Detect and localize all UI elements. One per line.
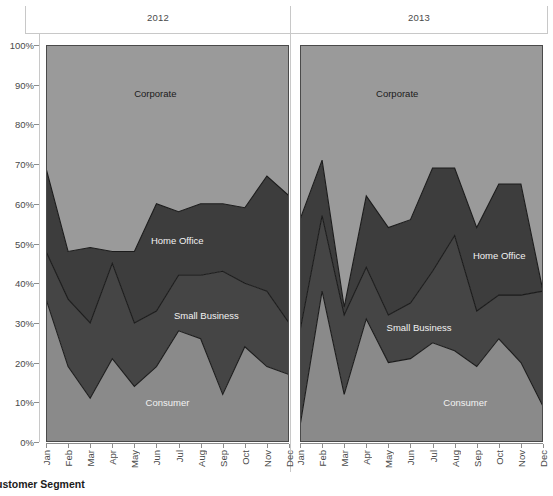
x-tick-mark <box>90 444 91 448</box>
x-tick-label-jan: Jan <box>41 450 52 465</box>
y-axis-line <box>39 34 40 442</box>
x-tick-label-feb: Feb <box>317 450 328 466</box>
x-tick-mark <box>477 444 478 448</box>
y-tick-mark <box>34 164 39 165</box>
x-tick-mark <box>179 444 180 448</box>
panel-header-2012: 2012 <box>25 6 290 34</box>
x-tick-mark <box>499 444 500 448</box>
x-tick-mark <box>156 444 157 448</box>
x-tick-mark <box>455 444 456 448</box>
y-tick-label: 70% <box>15 159 34 170</box>
x-axis-2013: JanFebMarAprMayJunJulAugSepOctNovDec <box>300 443 543 493</box>
x-axis-2012: JanFebMarAprMayJunJulAugSepOctNovDec <box>46 443 289 493</box>
y-tick-label: 0% <box>20 437 34 448</box>
x-tick-mark <box>68 444 69 448</box>
x-tick-mark <box>245 444 246 448</box>
y-tick-label: 50% <box>15 238 34 249</box>
x-axis-line <box>46 443 289 444</box>
chart-root: 20122013 0%10%20%30%40%50%60%70%80%90%10… <box>0 0 553 496</box>
x-tick-label-may: May <box>383 450 394 468</box>
x-tick-mark <box>134 444 135 448</box>
x-tick-mark <box>433 444 434 448</box>
x-tick-label-jul: Jul <box>428 450 439 462</box>
panel-header-label: 2013 <box>291 12 547 23</box>
panel-header-band: 20122013 <box>25 6 548 34</box>
x-tick-mark <box>300 444 301 448</box>
y-tick-label: 80% <box>15 119 34 130</box>
x-tick-label-mar: Mar <box>339 450 350 466</box>
x-tick-label-may: May <box>129 450 140 468</box>
y-tick-mark <box>34 283 39 284</box>
y-tick-mark <box>34 323 39 324</box>
x-tick-label-dec: Dec <box>284 450 295 467</box>
x-tick-label-jul: Jul <box>174 450 185 462</box>
y-tick-mark <box>34 244 39 245</box>
x-tick-mark <box>322 444 323 448</box>
x-tick-mark <box>366 444 367 448</box>
x-tick-mark <box>267 444 268 448</box>
x-tick-label-apr: Apr <box>361 450 372 465</box>
y-tick-mark <box>34 124 39 125</box>
x-tick-label-jan: Jan <box>295 450 306 465</box>
x-tick-mark <box>521 444 522 448</box>
x-tick-mark <box>289 444 290 448</box>
x-tick-label-oct: Oct <box>494 450 505 465</box>
x-axis-line <box>300 443 543 444</box>
y-tick-mark <box>34 85 39 86</box>
x-tick-label-jun: Jun <box>151 450 162 465</box>
x-tick-mark <box>223 444 224 448</box>
y-tick-label: 90% <box>15 79 34 90</box>
y-tick-mark <box>34 204 39 205</box>
x-tick-label-sep: Sep <box>218 450 229 467</box>
panel-header-label: 2012 <box>26 12 290 23</box>
y-tick-mark <box>34 45 39 46</box>
x-tick-label-aug: Aug <box>196 450 207 467</box>
x-tick-label-mar: Mar <box>85 450 96 466</box>
x-tick-mark <box>344 444 345 448</box>
y-tick-mark <box>34 363 39 364</box>
x-tick-mark <box>46 444 47 448</box>
x-tick-label-jun: Jun <box>405 450 416 465</box>
x-tick-label-sep: Sep <box>472 450 483 467</box>
panel-header-2013: 2013 <box>290 6 548 34</box>
plot-panel-2013 <box>300 45 543 442</box>
x-tick-mark <box>543 444 544 448</box>
y-tick-label: 10% <box>15 397 34 408</box>
x-tick-label-oct: Oct <box>240 450 251 465</box>
plot-panel-2012 <box>46 45 289 442</box>
y-tick-label: 20% <box>15 357 34 368</box>
y-tick-mark <box>34 402 39 403</box>
y-axis: 0%10%20%30%40%50%60%70%80%90%100% <box>0 0 40 496</box>
x-tick-label-aug: Aug <box>450 450 461 467</box>
y-tick-label: 100% <box>10 40 34 51</box>
y-tick-label: 30% <box>15 317 34 328</box>
y-tick-mark <box>34 442 39 443</box>
x-tick-mark <box>201 444 202 448</box>
x-tick-mark <box>112 444 113 448</box>
x-tick-label-feb: Feb <box>63 450 74 466</box>
x-tick-label-dec: Dec <box>538 450 549 467</box>
x-tick-label-nov: Nov <box>262 450 273 467</box>
x-tick-label-nov: Nov <box>516 450 527 467</box>
x-tick-mark <box>410 444 411 448</box>
x-tick-label-apr: Apr <box>107 450 118 465</box>
panel-divider <box>290 6 291 472</box>
y-tick-label: 60% <box>15 198 34 209</box>
x-tick-mark <box>388 444 389 448</box>
y-tick-label: 40% <box>15 278 34 289</box>
